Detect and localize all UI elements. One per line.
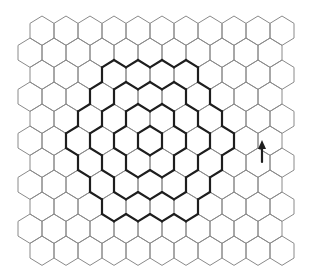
hex-cell (78, 236, 102, 265)
spiral-segment (102, 60, 114, 67)
hex-cell (234, 214, 258, 243)
hex-cell (222, 60, 246, 89)
spiral-segment (114, 214, 126, 221)
spiral-segment (162, 104, 174, 111)
spiral-segment (102, 170, 114, 177)
spiral-segment (114, 192, 126, 199)
hex-cell (18, 82, 42, 111)
spiral-segment (126, 192, 138, 199)
hex-cell (222, 16, 246, 45)
spiral-segment (150, 60, 162, 67)
spiral-segment (66, 126, 78, 133)
spiral-segment (78, 170, 90, 177)
spiral-segment (126, 104, 138, 111)
arrow-up-icon (258, 140, 266, 162)
spiral-segment (66, 148, 78, 155)
hex-cell (258, 170, 282, 199)
hex-cell (18, 126, 42, 155)
spiral-segment (102, 104, 114, 111)
spiral-segment (90, 192, 102, 199)
hex-cell (270, 60, 294, 89)
spiral-segment (210, 170, 222, 177)
spiral-segment (222, 148, 234, 155)
spiral-segment (102, 214, 114, 221)
hex-cell (270, 148, 294, 177)
spiral-segment (150, 82, 162, 89)
spiral-segment (186, 214, 198, 221)
hex-cell (30, 104, 54, 133)
spiral-segment (210, 104, 222, 111)
hex-cell (246, 104, 270, 133)
hex-cell (150, 236, 174, 265)
hex-cell (234, 126, 258, 155)
hex-cell (30, 148, 54, 177)
hex-cell (30, 16, 54, 45)
hex-cell (54, 192, 78, 221)
spiral-segment (138, 82, 150, 89)
hex-cell (42, 82, 66, 111)
spiral-segment (162, 192, 174, 199)
spiral-path (66, 60, 234, 221)
hex-grid-diagram (0, 0, 311, 278)
hex-cell (66, 214, 90, 243)
spiral-segment (138, 60, 150, 67)
hex-cell (102, 236, 126, 265)
hex-cell (270, 104, 294, 133)
spiral-segment (126, 170, 138, 177)
spiral-segment (186, 60, 198, 67)
spiral-segment (174, 126, 186, 133)
spiral-segment (150, 170, 162, 177)
hex-cell (210, 214, 234, 243)
hex-cell (246, 192, 270, 221)
hex-cell (42, 38, 66, 67)
spiral-segment (174, 214, 186, 221)
spiral-segment (186, 104, 198, 111)
hex-cell (78, 16, 102, 45)
hex-cell (42, 126, 66, 155)
hex-cell (210, 38, 234, 67)
spiral-segment (222, 126, 234, 133)
hex-cell (66, 38, 90, 67)
spiral-segment (90, 148, 102, 155)
spiral-segment (90, 82, 102, 89)
hex-cell (246, 60, 270, 89)
spiral-segment (174, 148, 186, 155)
hex-cell (54, 16, 78, 45)
hex-grid (18, 16, 294, 265)
hex-cell (126, 16, 150, 45)
spiral-segment (114, 60, 126, 67)
hex-cell (54, 236, 78, 265)
hex-cell (246, 148, 270, 177)
hex-cell (174, 16, 198, 45)
spiral-segment (162, 214, 174, 221)
hex-cell (270, 236, 294, 265)
spiral-segment (198, 192, 210, 199)
spiral-segment (150, 192, 162, 199)
hex-cell (270, 192, 294, 221)
spiral-segment (114, 148, 126, 155)
spiral-segment (198, 148, 210, 155)
hex-cell (246, 236, 270, 265)
hex-cell (30, 60, 54, 89)
hex-cell (222, 192, 246, 221)
spiral-segment (150, 104, 162, 111)
hex-cell (54, 60, 78, 89)
spiral-segment (198, 82, 210, 89)
hex-cell (30, 236, 54, 265)
spiral-segment (138, 214, 150, 221)
spiral-segment (138, 148, 150, 155)
hex-cell (150, 16, 174, 45)
hex-cell (198, 236, 222, 265)
spiral-segment (138, 126, 150, 133)
hex-cell (234, 82, 258, 111)
hex-cell (198, 16, 222, 45)
spiral-segment (126, 214, 138, 221)
spiral-segment (162, 82, 174, 89)
spiral-segment (126, 60, 138, 67)
hex-cell (18, 38, 42, 67)
spiral-segment (162, 170, 174, 177)
hex-cell (30, 192, 54, 221)
hex-cell (18, 170, 42, 199)
spiral-segment (174, 82, 186, 89)
hex-cell (126, 236, 150, 265)
